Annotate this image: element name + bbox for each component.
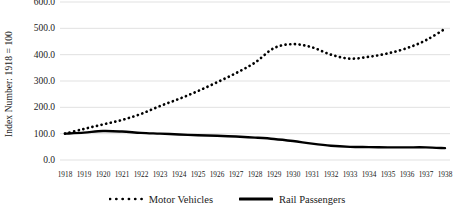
x-axis-tick-label: 1937 (419, 170, 434, 179)
x-axis-tick-label: 1936 (400, 170, 415, 179)
x-axis-tick-label: 1920 (96, 170, 111, 179)
legend-item-rail-passengers[interactable]: Rail Passengers (239, 194, 345, 205)
x-axis-tick-label: 1934 (362, 170, 377, 179)
x-axis-tick-label: 1927 (229, 170, 244, 179)
plot-area (60, 0, 450, 168)
plot-canvas (60, 0, 450, 168)
x-axis-tick-label: 1926 (210, 170, 225, 179)
y-axis-tick-labels: 0.0100.0200.0300.0400.0500.0600.0 (18, 0, 58, 168)
x-axis-tick-label: 1938 (438, 170, 453, 179)
x-axis-tick-label: 1918 (58, 170, 73, 179)
legend-swatch-solid (239, 195, 273, 203)
x-axis-tick-label: 1924 (172, 170, 187, 179)
y-axis-tick-label: 600.0 (34, 0, 55, 7)
x-axis-tick-label: 1930 (286, 170, 301, 179)
y-axis-title-text: Index Number: 1918 = 100 (4, 31, 14, 137)
legend-label: Rail Passengers (279, 194, 345, 205)
y-axis-tick-label: 0.0 (43, 155, 55, 165)
x-axis-tick-label: 1929 (267, 170, 282, 179)
chart-legend: Motor VehiclesRail Passengers (0, 188, 454, 210)
x-axis-tick-label: 1928 (248, 170, 263, 179)
y-axis-title: Index Number: 1918 = 100 (0, 0, 18, 168)
x-axis-tick-label: 1932 (324, 170, 339, 179)
x-axis-tick-labels: 1918191919201921192219231924192519261927… (0, 168, 454, 184)
x-axis-tick-label: 1935 (381, 170, 396, 179)
x-axis-tick-label: 1919 (77, 170, 92, 179)
y-axis-tick-label: 200.0 (34, 102, 55, 112)
line-chart: Index Number: 1918 = 100 0.0100.0200.030… (0, 0, 454, 216)
y-axis-tick-label: 100.0 (34, 129, 55, 139)
y-axis-tick-label: 300.0 (34, 76, 55, 86)
x-axis-tick-label: 1925 (191, 170, 206, 179)
x-axis-tick-label: 1922 (134, 170, 149, 179)
x-axis-tick-label: 1933 (343, 170, 358, 179)
x-axis-tick-label: 1921 (115, 170, 130, 179)
legend-item-motor-vehicles[interactable]: Motor Vehicles (109, 194, 213, 205)
legend-swatch-dotted (109, 195, 143, 203)
y-axis-tick-label: 500.0 (34, 23, 55, 33)
x-axis-tick-label: 1923 (153, 170, 168, 179)
y-axis-tick-label: 400.0 (34, 50, 55, 60)
legend-label: Motor Vehicles (149, 194, 213, 205)
x-axis-tick-label: 1931 (305, 170, 320, 179)
